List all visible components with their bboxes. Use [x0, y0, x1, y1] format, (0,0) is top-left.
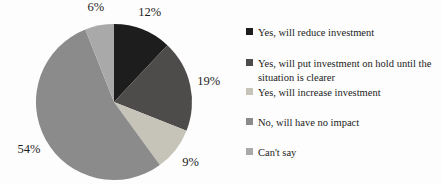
legend-label: No, will have no impact	[258, 116, 359, 130]
legend-marker-icon	[246, 28, 253, 35]
legend-item-reduce-investment: Yes, will reduce investment	[246, 26, 438, 40]
legend-marker-icon	[246, 148, 253, 155]
legend-item-increase-investment: Yes, will increase investment	[246, 86, 438, 100]
legend-label: Can't say	[258, 146, 296, 160]
legend-item-cant-say: Can't say	[246, 146, 438, 160]
legend-item-investment-on-hold: Yes, will put investment on hold until t…	[246, 57, 438, 84]
legend-label: Yes, will increase investment	[258, 86, 381, 100]
legend-item-no-impact: No, will have no impact	[246, 116, 438, 130]
legend-marker-icon	[246, 59, 253, 66]
legend-marker-icon	[246, 88, 253, 95]
slice-percent-label-1: 19%	[197, 74, 220, 88]
pie-plot-area: 12%19%9%54%6%	[0, 0, 240, 184]
legend-label: Yes, will reduce investment	[258, 26, 374, 40]
slice-percent-label-4: 6%	[87, 0, 104, 14]
slice-percent-label-0: 12%	[138, 5, 161, 19]
legend-marker-icon	[246, 118, 253, 125]
legend: Yes, will reduce investment Yes, will pu…	[246, 0, 438, 184]
slice-percent-label-3: 54%	[18, 142, 41, 156]
slice-percent-label-2: 9%	[182, 155, 199, 169]
pie-chart-figure: 12%19%9%54%6% Yes, will reduce investmen…	[0, 0, 441, 184]
legend-label: Yes, will put investment on hold until t…	[258, 57, 431, 84]
pie-chart: 12%19%9%54%6%	[0, 0, 240, 184]
